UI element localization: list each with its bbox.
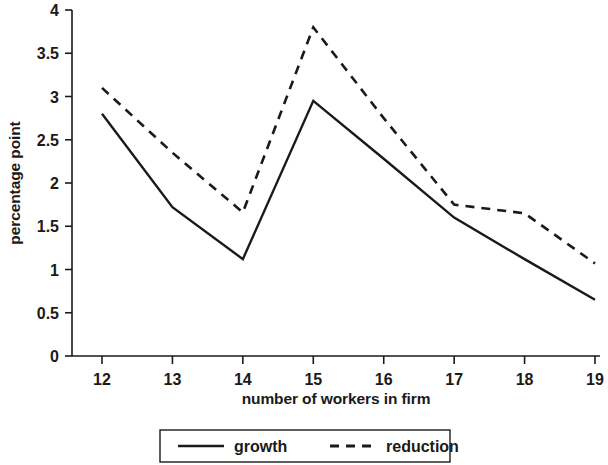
y-tick-label: 4 xyxy=(50,2,59,19)
y-axis-title: percentage point xyxy=(6,121,23,244)
x-tick-label: 16 xyxy=(375,371,393,388)
x-tick-label: 14 xyxy=(234,371,252,388)
legend-label-reduction: reduction xyxy=(386,438,459,455)
line-chart: 00.511.522.533.54 1213141516171819 perce… xyxy=(0,0,608,465)
chart-canvas: 00.511.522.533.54 1213141516171819 perce… xyxy=(0,0,608,465)
y-tick-label: 2.5 xyxy=(37,132,59,149)
y-tick-label: 3.5 xyxy=(37,45,59,62)
x-tick-label: 18 xyxy=(516,371,534,388)
x-tick-label: 19 xyxy=(586,371,604,388)
y-tick-label: 1 xyxy=(50,262,59,279)
x-tick-label: 12 xyxy=(93,371,111,388)
y-tick-label: 1.5 xyxy=(37,218,59,235)
y-tick-label: 3 xyxy=(50,89,59,106)
legend-label-growth: growth xyxy=(234,438,287,455)
x-tick-label: 13 xyxy=(164,371,182,388)
x-axis-title: number of workers in firm xyxy=(242,390,431,407)
y-tick-label: 0 xyxy=(50,348,59,365)
x-tick-label: 15 xyxy=(304,371,322,388)
x-tick-label: 17 xyxy=(445,371,463,388)
y-tick-label: 0.5 xyxy=(37,305,59,322)
chart-legend: growthreduction xyxy=(160,430,459,462)
y-tick-label: 2 xyxy=(50,175,59,192)
